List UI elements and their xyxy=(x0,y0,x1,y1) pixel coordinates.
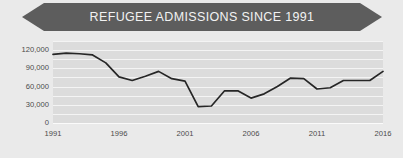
y-tick-label: 90,000 xyxy=(26,64,49,72)
series-polyline xyxy=(53,53,383,106)
x-tick-label: 1991 xyxy=(45,129,62,138)
y-tick-label: 0 xyxy=(45,119,49,127)
chart-title: REFUGEE ADMISSIONS SINCE 1991 xyxy=(22,3,382,31)
y-tick-label: 120,000 xyxy=(22,46,49,54)
x-tick-label: 2011 xyxy=(309,129,325,138)
x-tick-label: 2016 xyxy=(375,129,392,138)
y-tick-label: 60,000 xyxy=(26,83,49,91)
x-tick-label: 2001 xyxy=(177,129,194,138)
chart-figure: REFUGEE ADMISSIONS SINCE 1991 120,00090,… xyxy=(0,0,403,158)
y-axis-tick-labels: 120,00090,00060,00030,0000 xyxy=(0,41,49,123)
x-tick-label: 2006 xyxy=(243,129,260,138)
x-tick-label: 1996 xyxy=(111,129,128,138)
title-banner: REFUGEE ADMISSIONS SINCE 1991 xyxy=(22,3,382,31)
x-axis-tick-labels: 199119962001200620112016 xyxy=(53,129,383,141)
y-tick-label: 30,000 xyxy=(26,101,49,109)
refugee-admissions-line xyxy=(53,41,383,123)
x-axis-line xyxy=(53,123,383,124)
